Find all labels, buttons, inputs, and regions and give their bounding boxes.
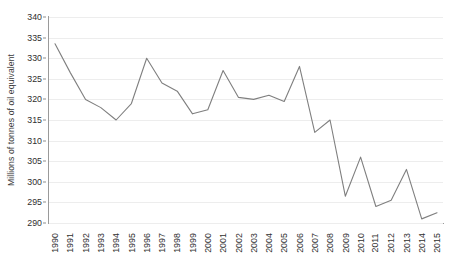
x-axis-tick-label-text: 2004 (264, 233, 274, 253)
x-axis-tick-label-text: 2010 (356, 233, 366, 253)
y-axis-tick-labels: 340335330325320315310305300295290 (20, 0, 46, 240)
x-axis-tick-label-text: 1995 (126, 233, 136, 253)
y-axis-tick-label: 340 (27, 12, 42, 22)
line-chart: Millions of tonnes of oil equivalent 340… (0, 0, 451, 267)
y-axis-tick-mark (43, 99, 46, 100)
y-axis-tick-label: 290 (27, 218, 42, 228)
x-axis-tick-label-text: 1991 (65, 233, 75, 253)
y-axis-tick-mark (43, 120, 46, 121)
x-axis-tick-label-text: 2013 (401, 233, 411, 253)
y-axis-tick-label: 325 (27, 74, 42, 84)
x-axis-tick-label-text: 2000 (203, 233, 213, 253)
x-axis-tick-label: 2002 (231, 226, 245, 266)
x-axis-tick-label-text: 2001 (218, 233, 228, 253)
x-axis-tick-label: 2003 (247, 226, 261, 266)
x-axis-tick-label: 2014 (415, 226, 429, 266)
series-polyline (55, 44, 437, 219)
y-axis-tick-mark (43, 181, 46, 182)
x-axis-tick-label: 2015 (430, 226, 444, 266)
y-axis-tick-label: 330 (27, 53, 42, 63)
y-axis-tick-label: 305 (27, 156, 42, 166)
y-axis-tick-mark (43, 17, 46, 18)
y-axis-tick-mark (43, 161, 46, 162)
x-axis-tick-label: 1995 (124, 226, 138, 266)
data-series-line (49, 17, 443, 223)
y-axis-tick-label: 335 (27, 33, 42, 43)
x-axis-tick-label-text: 1998 (172, 233, 182, 253)
x-axis-tick-label: 2005 (277, 226, 291, 266)
x-axis-tick-label: 2006 (292, 226, 306, 266)
x-axis-tick-label: 1998 (170, 226, 184, 266)
x-axis-tick-label-text: 2015 (432, 233, 442, 253)
y-axis-tick-label: 310 (27, 136, 42, 146)
x-axis-tick-label: 1996 (140, 226, 154, 266)
x-axis-tick-label: 1992 (79, 226, 93, 266)
y-axis-title: Millions of tonnes of oil equivalent (0, 0, 22, 240)
x-axis-tick-label: 2004 (262, 226, 276, 266)
y-axis-title-label: Millions of tonnes of oil equivalent (6, 54, 16, 186)
x-axis-tick-label: 2007 (308, 226, 322, 266)
x-axis-tick-label: 2013 (399, 226, 413, 266)
plot-area (49, 17, 443, 223)
x-axis-tick-label-text: 1990 (50, 233, 60, 253)
y-axis-tick-mark (43, 202, 46, 203)
x-axis-tick-label-text: 1993 (96, 233, 106, 253)
x-axis-tick-label: 1994 (109, 226, 123, 266)
x-axis-tick-label-text: 2003 (249, 233, 259, 253)
x-axis-tick-label-text: 1996 (142, 233, 152, 253)
x-axis-tick-label: 1997 (155, 226, 169, 266)
x-axis-tick-label: 1991 (63, 226, 77, 266)
y-axis-tick-mark (43, 58, 46, 59)
x-axis-tick-label-text: 2007 (310, 233, 320, 253)
y-axis-tick-mark (43, 37, 46, 38)
y-axis-tick-mark (43, 140, 46, 141)
x-axis-tick-label: 2010 (354, 226, 368, 266)
x-axis-tick-label-text: 2006 (294, 233, 304, 253)
y-axis-tick-label: 320 (27, 94, 42, 104)
x-axis-tick-label: 1999 (186, 226, 200, 266)
x-axis-tick-label-text: 1992 (81, 233, 91, 253)
x-axis-tick-labels: 1990199119921993199419951996199719981999… (49, 224, 443, 267)
x-axis-tick-label: 1993 (94, 226, 108, 266)
x-axis-tick-label-text: 2009 (340, 233, 350, 253)
x-axis-tick-label: 2011 (369, 226, 383, 266)
x-axis-tick-label: 2012 (384, 226, 398, 266)
x-axis-tick-label: 2000 (201, 226, 215, 266)
x-axis-tick-label-text: 2005 (279, 233, 289, 253)
x-axis-tick-label-text: 2012 (386, 233, 396, 253)
x-axis-tick-label-text: 2002 (233, 233, 243, 253)
x-axis-tick-label-text: 1994 (111, 233, 121, 253)
y-axis-tick-mark (43, 223, 46, 224)
x-axis-tick-label: 2009 (338, 226, 352, 266)
x-axis-tick-label-text: 2014 (417, 233, 427, 253)
x-axis-tick-label-text: 1999 (188, 233, 198, 253)
y-axis-tick-label: 295 (27, 197, 42, 207)
x-axis-tick-label-text: 1997 (157, 233, 167, 253)
y-axis-tick-label: 300 (27, 177, 42, 187)
x-axis-tick-label: 2008 (323, 226, 337, 266)
y-axis-tick-mark (43, 78, 46, 79)
y-axis-tick-label: 315 (27, 115, 42, 125)
x-axis-tick-label-text: 2011 (371, 234, 381, 253)
x-axis-tick-label-text: 2008 (325, 233, 335, 253)
x-axis-tick-label: 2001 (216, 226, 230, 266)
x-axis-tick-label: 1990 (48, 226, 62, 266)
